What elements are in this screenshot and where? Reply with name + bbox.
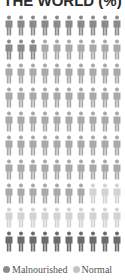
person-icon	[39, 134, 51, 158]
person-icon	[111, 62, 123, 86]
person-icon	[39, 14, 51, 38]
person-icon	[51, 158, 63, 182]
person-icon	[3, 134, 15, 158]
person-icon	[39, 158, 51, 182]
person-icon	[63, 110, 75, 134]
person-icon	[51, 182, 63, 206]
person-icon	[39, 62, 51, 86]
person-icon	[75, 230, 87, 254]
person-icon	[3, 14, 15, 38]
legend-swatch-normal	[73, 266, 80, 273]
pictogram-row	[3, 182, 125, 206]
person-icon	[87, 14, 99, 38]
legend-swatch-malnourished	[3, 266, 10, 273]
person-icon	[75, 206, 87, 230]
person-icon	[27, 182, 39, 206]
person-icon	[111, 38, 123, 62]
person-icon	[111, 158, 123, 182]
person-icon	[111, 182, 123, 206]
person-icon	[27, 206, 39, 230]
person-icon	[51, 86, 63, 110]
person-icon	[3, 206, 15, 230]
person-icon	[111, 230, 123, 254]
person-icon	[75, 158, 87, 182]
person-icon	[75, 38, 87, 62]
person-icon	[27, 86, 39, 110]
person-icon	[3, 230, 15, 254]
person-icon	[87, 38, 99, 62]
person-icon	[27, 62, 39, 86]
person-icon	[63, 158, 75, 182]
person-icon	[99, 230, 111, 254]
person-icon	[39, 206, 51, 230]
person-icon	[3, 110, 15, 134]
person-icon	[63, 206, 75, 230]
person-icon	[39, 38, 51, 62]
person-icon	[27, 158, 39, 182]
legend-label-normal: Normal	[82, 264, 113, 275]
person-icon	[15, 182, 27, 206]
pictogram-row	[3, 134, 125, 158]
person-icon	[63, 86, 75, 110]
pictogram-row	[3, 14, 125, 38]
person-icon	[111, 134, 123, 158]
person-icon	[27, 230, 39, 254]
person-icon	[87, 134, 99, 158]
pictogram-row	[3, 110, 125, 134]
person-icon	[39, 110, 51, 134]
person-icon	[75, 86, 87, 110]
person-icon	[111, 206, 123, 230]
person-icon	[87, 230, 99, 254]
person-icon	[51, 38, 63, 62]
person-icon	[87, 158, 99, 182]
legend-label-malnourished: Malnourished	[12, 264, 68, 275]
person-icon	[99, 62, 111, 86]
person-icon	[27, 14, 39, 38]
person-icon	[15, 38, 27, 62]
person-icon	[51, 134, 63, 158]
person-icon	[63, 38, 75, 62]
person-icon	[99, 182, 111, 206]
person-icon	[111, 110, 123, 134]
chart-title: THE WORLD (%)	[0, 0, 125, 9]
person-icon	[111, 86, 123, 110]
legend: Malnourished Normal	[0, 264, 125, 275]
person-icon	[51, 62, 63, 86]
person-icon	[39, 182, 51, 206]
person-icon	[3, 38, 15, 62]
person-icon	[3, 86, 15, 110]
person-icon	[15, 206, 27, 230]
person-icon	[87, 110, 99, 134]
person-icon	[51, 110, 63, 134]
person-icon	[87, 206, 99, 230]
person-icon	[15, 134, 27, 158]
person-icon	[15, 86, 27, 110]
person-icon	[15, 14, 27, 38]
pictogram-grid	[3, 14, 125, 254]
person-icon	[3, 158, 15, 182]
person-icon	[63, 182, 75, 206]
person-icon	[15, 62, 27, 86]
person-icon	[99, 110, 111, 134]
person-icon	[75, 110, 87, 134]
person-icon	[75, 62, 87, 86]
person-icon	[39, 86, 51, 110]
person-icon	[63, 134, 75, 158]
person-icon	[99, 86, 111, 110]
person-icon	[15, 110, 27, 134]
person-icon	[111, 14, 123, 38]
pictogram-row	[3, 86, 125, 110]
pictogram-row	[3, 62, 125, 86]
person-icon	[3, 62, 15, 86]
person-icon	[75, 14, 87, 38]
person-icon	[15, 158, 27, 182]
person-icon	[87, 86, 99, 110]
person-icon	[75, 134, 87, 158]
person-icon	[63, 14, 75, 38]
person-icon	[99, 206, 111, 230]
pictogram-row	[3, 206, 125, 230]
pictogram-row	[3, 230, 125, 254]
person-icon	[75, 182, 87, 206]
pictogram-row	[3, 158, 125, 182]
person-icon	[27, 38, 39, 62]
